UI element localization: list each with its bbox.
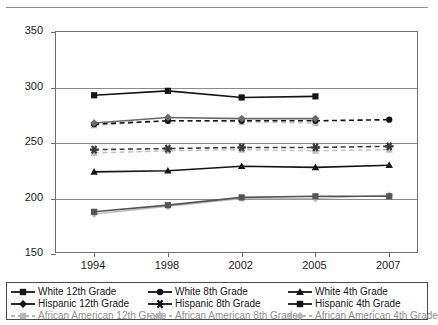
y-tick [51, 199, 56, 200]
x-tick [389, 252, 390, 257]
y-tick [51, 32, 56, 33]
series-line [94, 91, 315, 98]
y-axis-label: 250 [3, 135, 43, 147]
series-hispanic-4th-grade [91, 193, 392, 215]
x-tick [315, 252, 316, 257]
data-point [386, 117, 392, 123]
data-point [312, 93, 318, 99]
plot-area [55, 31, 418, 253]
series-white-12th-grade [91, 88, 319, 101]
legend-label: White 8th Grade [175, 286, 248, 298]
legend-row: White 12th GradeWhite 8th GradeWhite 4th… [7, 286, 427, 298]
x-axis-label: 1994 [63, 259, 123, 271]
y-axis-label: 200 [3, 191, 43, 203]
series-white-4th-grade [90, 161, 393, 174]
x-tick [94, 252, 95, 257]
y-axis-label: 150 [3, 246, 43, 258]
data-point [239, 94, 245, 100]
legend-item[interactable]: African American 12th Grade [10, 310, 166, 322]
legend-marker-diamond-icon [10, 298, 36, 310]
header-divider [6, 7, 428, 8]
legend-label: Hispanic 8th Grade [175, 298, 261, 310]
legend-marker-square-icon [10, 310, 36, 322]
legend-item[interactable]: Hispanic 4th Grade [287, 298, 401, 310]
legend-label: African American 4th Grade [315, 310, 438, 322]
legend-item[interactable]: Hispanic 12th Grade [10, 298, 129, 310]
data-point [91, 209, 97, 215]
legend-label: Hispanic 4th Grade [315, 298, 401, 310]
legend-label: White 12th Grade [38, 286, 116, 298]
legend-label: White 4th Grade [315, 286, 388, 298]
legend-marker-asterisk-icon [147, 298, 173, 310]
cropped-header-text [8, 0, 168, 6]
data-point [165, 88, 171, 94]
legend-item[interactable]: African American 8th Grade [147, 310, 298, 322]
y-axis-label: 350 [3, 24, 43, 36]
y-tick [51, 254, 56, 255]
y-tick [51, 88, 56, 89]
data-point [91, 92, 97, 98]
legend-item[interactable]: White 4th Grade [287, 286, 388, 298]
x-tick [168, 252, 169, 257]
y-tick [51, 143, 56, 144]
data-point [386, 193, 392, 199]
data-point [312, 193, 318, 199]
legend-item[interactable]: White 12th Grade [10, 286, 116, 298]
x-axis-label: 2007 [358, 259, 418, 271]
legend-label: Hispanic 12th Grade [38, 298, 129, 310]
x-axis-label: 2005 [284, 259, 344, 271]
legend-marker-diamond-icon [287, 310, 313, 322]
legend-row: Hispanic 12th GradeHispanic 8th GradeHis… [7, 298, 427, 310]
legend-item[interactable]: African American 4th Grade [287, 310, 438, 322]
series-layer [56, 32, 419, 254]
legend-item[interactable]: White 8th Grade [147, 286, 248, 298]
legend-label: African American 8th Grade [175, 310, 298, 322]
x-axis-label: 2002 [211, 259, 271, 271]
x-tick [242, 252, 243, 257]
chart-legend: White 12th GradeWhite 8th GradeWhite 4th… [6, 282, 428, 320]
x-axis-label: 1998 [137, 259, 197, 271]
legend-marker-square-icon [10, 286, 36, 298]
legend-marker-square-icon [147, 310, 173, 322]
legend-marker-triangle-icon [287, 286, 313, 298]
data-point [165, 202, 171, 208]
data-point [239, 194, 245, 200]
legend-row: African American 12th GradeAfrican Ameri… [7, 310, 427, 322]
legend-marker-square-icon [287, 298, 313, 310]
legend-item[interactable]: Hispanic 8th Grade [147, 298, 261, 310]
y-axis-label: 300 [3, 80, 43, 92]
legend-marker-circle-icon [147, 286, 173, 298]
